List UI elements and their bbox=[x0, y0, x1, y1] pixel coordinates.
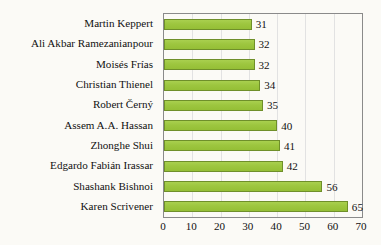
value-axis: 010203040506070 bbox=[163, 219, 361, 235]
bar bbox=[164, 39, 255, 50]
category-label: Edgardo Fabián Irassar bbox=[0, 159, 158, 171]
bar-row: 42 bbox=[164, 161, 362, 172]
category-label: Shashank Bishnoi bbox=[0, 180, 158, 192]
bar-value-label: 32 bbox=[259, 59, 270, 70]
value-tick-label: 70 bbox=[355, 219, 366, 233]
value-tick-label: 0 bbox=[160, 219, 166, 233]
bar-value-label: 42 bbox=[287, 161, 298, 172]
bar-row: 31 bbox=[164, 19, 362, 30]
bar bbox=[164, 161, 283, 172]
category-label: Zhonghe Shui bbox=[0, 139, 158, 151]
bar-value-label: 65 bbox=[352, 201, 363, 212]
bar-chart: Martin KeppertAli Akbar RamezanianpourMo… bbox=[0, 0, 381, 245]
bar-row: 35 bbox=[164, 100, 362, 111]
bar-row: 65 bbox=[164, 201, 362, 212]
value-tick-label: 20 bbox=[214, 219, 225, 233]
plot-area: 31323234354041425665 bbox=[163, 13, 363, 218]
bar-value-label: 34 bbox=[264, 80, 275, 91]
category-label: Moisés Frías bbox=[0, 58, 158, 70]
value-tick-label: 40 bbox=[271, 219, 282, 233]
value-tick-label: 60 bbox=[327, 219, 338, 233]
bar-row: 40 bbox=[164, 120, 362, 131]
bar-value-label: 31 bbox=[256, 19, 267, 30]
category-label: Robert Černý bbox=[0, 98, 158, 110]
category-label: Martin Keppert bbox=[0, 17, 158, 29]
bar bbox=[164, 201, 348, 212]
bar bbox=[164, 19, 252, 30]
bars-layer: 31323234354041425665 bbox=[164, 14, 362, 217]
bar bbox=[164, 140, 280, 151]
value-tick-label: 50 bbox=[299, 219, 310, 233]
category-label: Karen Scrivener bbox=[0, 200, 158, 212]
bar-row: 34 bbox=[164, 80, 362, 91]
bar-value-label: 41 bbox=[284, 140, 295, 151]
category-label: Christian Thienel bbox=[0, 78, 158, 90]
bar-row: 56 bbox=[164, 181, 362, 192]
bar-value-label: 56 bbox=[326, 181, 337, 192]
category-label: Assem A.A. Hassan bbox=[0, 119, 158, 131]
bar-row: 32 bbox=[164, 39, 362, 50]
bar bbox=[164, 120, 277, 131]
bar bbox=[164, 181, 322, 192]
bar bbox=[164, 100, 263, 111]
bar bbox=[164, 80, 260, 91]
bar-row: 41 bbox=[164, 140, 362, 151]
bar-value-label: 35 bbox=[267, 100, 278, 111]
value-tick-label: 30 bbox=[242, 219, 253, 233]
bar-row: 32 bbox=[164, 59, 362, 70]
bar-value-label: 32 bbox=[259, 39, 270, 50]
category-label: Ali Akbar Ramezanianpour bbox=[0, 37, 158, 49]
category-axis: Martin KeppertAli Akbar RamezanianpourMo… bbox=[0, 13, 158, 216]
bar-value-label: 40 bbox=[281, 120, 292, 131]
bar bbox=[164, 59, 255, 70]
value-tick-label: 10 bbox=[186, 219, 197, 233]
